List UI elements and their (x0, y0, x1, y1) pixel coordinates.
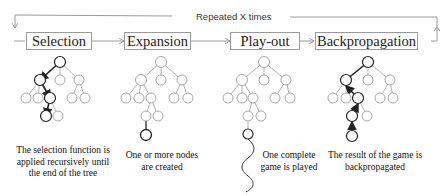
caption-line: One or more nodes (122, 150, 202, 162)
caption-line: applied recursively until (14, 157, 112, 169)
playout-random-path (242, 139, 254, 192)
caption-selection: The selection function is applied recurs… (14, 145, 112, 180)
caption-line: the end of the tree (14, 168, 112, 180)
caption-line: game is played (258, 162, 320, 174)
stage-playout: Play-out (230, 32, 300, 50)
caption-line: The result of the game is (325, 150, 425, 162)
stage-expansion: Expansion (124, 32, 191, 50)
backpropagation-tree (328, 57, 398, 142)
caption-playout: One complete game is played (258, 150, 320, 173)
caption-line: The selection function is (14, 145, 112, 157)
caption-line: One complete (258, 150, 320, 162)
caption-line: are created (122, 162, 202, 174)
selection-tree (21, 57, 90, 122)
repeat-label: Repeated X times (196, 11, 272, 22)
stage-backpropagation: Backpropagation (315, 32, 418, 50)
caption-expansion: One or more nodes are created (122, 150, 202, 173)
caption-line: backpropagated (325, 162, 425, 174)
stage-selection: Selection (26, 32, 92, 50)
expansion-tree (121, 57, 193, 141)
caption-backpropagation: The result of the game is backpropagated (325, 150, 425, 173)
